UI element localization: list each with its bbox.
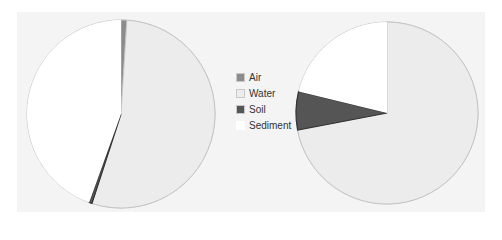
legend-label-water: Water	[249, 88, 275, 99]
legend-swatch-air	[236, 73, 245, 82]
legend-label-air: Air	[249, 72, 261, 83]
legend-swatch-soil	[236, 105, 245, 114]
chart-legend: Air Water Soil Sediment	[236, 70, 291, 134]
legend-swatch-sediment	[236, 121, 245, 130]
pie-chart-right	[296, 22, 478, 204]
legend-item-soil: Soil	[236, 102, 291, 117]
legend-label-soil: Soil	[249, 104, 266, 115]
legend-swatch-water	[236, 89, 245, 98]
legend-item-sediment: Sediment	[236, 118, 291, 133]
pie-chart-left	[27, 20, 215, 208]
legend-label-sediment: Sediment	[249, 120, 291, 131]
legend-item-air: Air	[236, 70, 291, 85]
legend-item-water: Water	[236, 86, 291, 101]
